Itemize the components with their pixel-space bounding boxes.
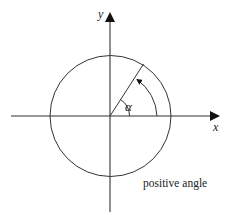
angle-alpha-label: α	[125, 99, 133, 114]
x-axis-label: x	[212, 120, 219, 134]
positive-angle-diagram: y x α positive angle	[0, 0, 231, 215]
caption-text: positive angle	[143, 177, 207, 190]
y-axis-label: y	[97, 7, 104, 21]
rotation-arrow-arc	[137, 80, 157, 117]
